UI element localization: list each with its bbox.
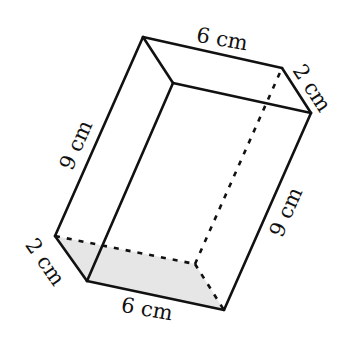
rectangular-prism-diagram: 6 cm 2 cm 9 cm 9 cm 2 cm 6 cm (0, 0, 349, 343)
label-left-height: 9 cm (55, 116, 98, 173)
label-right-height: 9 cm (265, 183, 308, 240)
edge-top-front (173, 83, 311, 113)
